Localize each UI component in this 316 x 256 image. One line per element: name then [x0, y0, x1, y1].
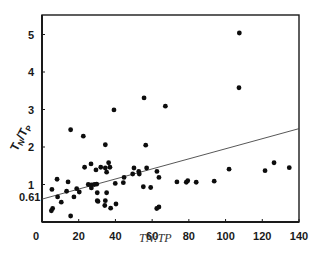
data-point [132, 166, 137, 171]
data-point [157, 205, 162, 210]
data-point [68, 214, 73, 219]
data-point [272, 160, 277, 165]
data-point [144, 166, 149, 171]
data-point [237, 85, 242, 90]
data-point [175, 179, 180, 184]
x-tick-label: 100 [216, 230, 234, 242]
data-point [89, 185, 94, 190]
scatter-chart: 020406080100120140 12345 0.61 TN:TP TN/T… [0, 0, 316, 256]
y-tick-label: 1 [28, 179, 34, 191]
y-tick-label: 3 [28, 104, 34, 116]
data-point [59, 200, 64, 205]
data-point [94, 182, 99, 187]
data-point [96, 199, 101, 204]
data-point [102, 203, 107, 208]
data-point [98, 165, 103, 170]
data-point [155, 169, 160, 174]
data-point [49, 208, 54, 213]
data-point [95, 190, 100, 195]
data-point [263, 168, 268, 173]
data-point [287, 165, 292, 170]
data-point [82, 165, 87, 170]
data-point [103, 198, 108, 203]
data-point [113, 181, 118, 186]
x-tick-label: 140 [290, 230, 308, 242]
data-point [114, 202, 119, 207]
data-point [130, 172, 135, 177]
y-annotation-label: 0.61 [19, 191, 40, 203]
data-point [103, 166, 108, 171]
data-point [121, 180, 126, 185]
data-point [55, 177, 60, 182]
data-point [141, 184, 146, 189]
data-point [163, 104, 168, 109]
data-point [68, 127, 73, 132]
data-point [81, 134, 86, 139]
y-tick-label: 5 [28, 29, 34, 41]
data-point [89, 161, 94, 166]
data-point [103, 142, 108, 147]
regression-line [42, 129, 299, 200]
data-point [108, 165, 113, 170]
data-point [237, 31, 242, 36]
data-point [55, 194, 60, 199]
data-point [212, 179, 217, 184]
data-point [77, 190, 82, 195]
y-tick-label: 4 [28, 66, 35, 78]
data-point [122, 175, 127, 180]
data-point [104, 190, 109, 195]
x-tick-label: 40 [109, 230, 121, 242]
data-point [50, 187, 55, 192]
data-point [106, 160, 111, 165]
data-point [112, 107, 117, 112]
x-title-tp: TP [158, 231, 173, 245]
x-tick-label: 80 [183, 230, 195, 242]
x-tick-label: 120 [253, 230, 271, 242]
y-tick-label: 2 [28, 141, 34, 153]
data-point [108, 206, 113, 211]
data-point [137, 172, 142, 177]
data-point [185, 178, 190, 183]
data-point [66, 179, 71, 184]
x-tick-label: 20 [73, 230, 85, 242]
x-tick-label: 0 [33, 230, 39, 242]
data-points [49, 31, 292, 219]
data-point [194, 180, 199, 185]
data-point [148, 185, 153, 190]
data-point [143, 143, 148, 148]
x-title-tn: TN [139, 231, 155, 245]
data-point [142, 95, 147, 100]
data-point [104, 170, 109, 175]
data-point [157, 175, 162, 180]
data-point [72, 194, 77, 199]
data-point [64, 189, 69, 194]
data-point [227, 167, 232, 172]
x-axis-title: TN:TP [139, 231, 172, 245]
data-point [94, 167, 99, 172]
